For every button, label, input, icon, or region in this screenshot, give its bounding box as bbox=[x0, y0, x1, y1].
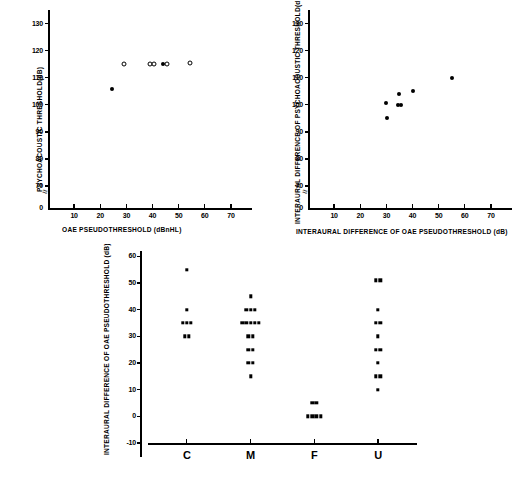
panel-c-data-point bbox=[310, 415, 313, 418]
panel-c-y-tick bbox=[137, 416, 141, 417]
panel-c-data-point bbox=[247, 361, 250, 364]
panel-c-x-tick bbox=[250, 439, 251, 444]
panel-c-data-point bbox=[240, 321, 243, 324]
panel-oae-difference-by-category: INTERAURAL DIFFERENCE OF OAE PSEUDOTHRES… bbox=[95, 243, 425, 486]
panel-b-data-point bbox=[385, 116, 389, 120]
panel-c-y-tick-label: 0 bbox=[112, 412, 136, 419]
panel-a-y-tick-label: 110 bbox=[18, 74, 43, 81]
panel-a-y-tick-label: 120 bbox=[18, 47, 43, 54]
panel-c-data-point bbox=[310, 401, 313, 404]
panel-b-y-tick bbox=[305, 158, 309, 159]
panel-a-y-tick-label: 100 bbox=[18, 101, 43, 108]
panel-a-x-tick bbox=[230, 204, 231, 209]
panel-a-x-tick-label: 60 bbox=[195, 212, 215, 219]
panel-c-data-point bbox=[374, 321, 377, 324]
panel-a-x-tick bbox=[178, 204, 179, 209]
panel-c-x-axis bbox=[148, 443, 417, 445]
panel-a-x-tick bbox=[100, 204, 101, 209]
panel-c-data-point bbox=[247, 335, 250, 338]
panel-a-data-point bbox=[121, 62, 126, 67]
panel-c-data-point bbox=[185, 308, 188, 311]
panel-a-data-point bbox=[161, 62, 165, 66]
panel-b-x-tick-label: 10 bbox=[324, 212, 344, 219]
panel-c-data-point bbox=[249, 321, 252, 324]
panel-b-x-tick-label: 20 bbox=[350, 212, 370, 219]
panel-a-y-tick bbox=[45, 131, 49, 132]
panel-c-category-label-u: U bbox=[366, 449, 390, 461]
panel-c-data-point bbox=[315, 415, 318, 418]
panel-interaural-difference: INTERAURAL DIFFERENCE OF PSYCHOACOUSTIC … bbox=[260, 0, 520, 243]
panel-c-data-point bbox=[306, 415, 309, 418]
panel-c-x-tick bbox=[186, 439, 187, 444]
panel-c-data-point bbox=[187, 335, 190, 338]
panel-c-data-point bbox=[378, 321, 381, 324]
panel-b-x-tick bbox=[490, 204, 491, 209]
panel-c-data-point bbox=[189, 321, 192, 324]
panel-a-data-point bbox=[151, 62, 156, 67]
panel-b-y-tick bbox=[305, 23, 309, 24]
panel-c-data-point bbox=[374, 375, 377, 378]
panel-a-x-tick-label: 10 bbox=[64, 212, 84, 219]
panel-c-y-tick bbox=[137, 362, 141, 363]
panel-c-y-tick-label: 20 bbox=[112, 359, 136, 366]
panel-b-x-tick bbox=[438, 204, 439, 209]
panel-a-x-tick bbox=[152, 204, 153, 209]
panel-b-x-tick bbox=[333, 204, 334, 209]
panel-c-category-label-c: C bbox=[175, 449, 199, 461]
panel-c-data-point bbox=[376, 361, 379, 364]
panel-c-category-label-m: M bbox=[239, 449, 263, 461]
panel-b-x-tick bbox=[386, 204, 387, 209]
panel-a-y-axis bbox=[48, 10, 50, 208]
panel-c-y-tick-label: 40 bbox=[112, 306, 136, 313]
panel-a-x-tick-label: 20 bbox=[90, 212, 110, 219]
panel-a-x-axis bbox=[48, 208, 252, 210]
panel-b-x-tick-label: 60 bbox=[455, 212, 475, 219]
panel-c-y-tick-label: 30 bbox=[112, 332, 136, 339]
panel-c-x-tick bbox=[377, 439, 378, 444]
panel-a-x-tick-label: 50 bbox=[169, 212, 189, 219]
panel-c-data-point bbox=[249, 375, 252, 378]
panel-a-x-tick bbox=[204, 204, 205, 209]
panel-c-data-point bbox=[245, 321, 248, 324]
panel-a-y-tick bbox=[45, 158, 49, 159]
panel-b-y-tick-label: 70 bbox=[278, 182, 303, 189]
panel-c-data-point bbox=[374, 279, 377, 282]
panel-b-plot-area: 1301201101009080700≈10203040506070 bbox=[260, 0, 520, 243]
panel-c-y-tick-label: 50 bbox=[112, 279, 136, 286]
panel-a-x-tick bbox=[73, 204, 74, 209]
panel-a-y-tick-label: 130 bbox=[18, 20, 43, 27]
panel-c-data-point bbox=[251, 348, 254, 351]
panel-a-y-tick bbox=[45, 23, 49, 24]
panel-c-x-tick bbox=[314, 439, 315, 444]
panel-c-category-label-f: F bbox=[302, 449, 326, 461]
panel-c-y-tick-label: -10 bbox=[112, 439, 136, 446]
panel-b-data-point bbox=[384, 101, 388, 105]
panel-a-y-tick-label: 80 bbox=[18, 155, 43, 162]
panel-c-data-point bbox=[376, 388, 379, 391]
panel-c-plot-area: 6050403020100-10CMFU bbox=[95, 243, 425, 486]
panel-b-y-tick bbox=[305, 104, 309, 105]
panel-a-y-tick bbox=[45, 50, 49, 51]
panel-b-x-tick-label: 70 bbox=[481, 212, 501, 219]
panel-c-data-point bbox=[251, 335, 254, 338]
panel-b-x-tick-label: 30 bbox=[376, 212, 396, 219]
panel-a-x-tick-label: 70 bbox=[221, 212, 241, 219]
panel-c-data-point bbox=[183, 335, 186, 338]
panel-b-x-tick bbox=[464, 204, 465, 209]
panel-b-x-tick-label: 40 bbox=[403, 212, 423, 219]
panel-c-data-point bbox=[253, 308, 256, 311]
panel-b-x-tick bbox=[412, 204, 413, 209]
panel-c-data-point bbox=[247, 348, 250, 351]
panel-c-data-point bbox=[257, 321, 260, 324]
panel-c-data-point bbox=[249, 308, 252, 311]
panel-a-y-tick bbox=[45, 104, 49, 105]
panel-c-data-point bbox=[378, 348, 381, 351]
panel-a-y-tick bbox=[45, 77, 49, 78]
panel-b-x-axis bbox=[308, 208, 512, 210]
panel-b-x-tick-label: 50 bbox=[429, 212, 449, 219]
panel-c-data-point bbox=[181, 321, 184, 324]
panel-c-y-tick bbox=[137, 256, 141, 257]
panel-b-y-tick bbox=[305, 77, 309, 78]
panel-c-data-point bbox=[378, 375, 381, 378]
panel-b-y-tick-label: 100 bbox=[278, 101, 303, 108]
